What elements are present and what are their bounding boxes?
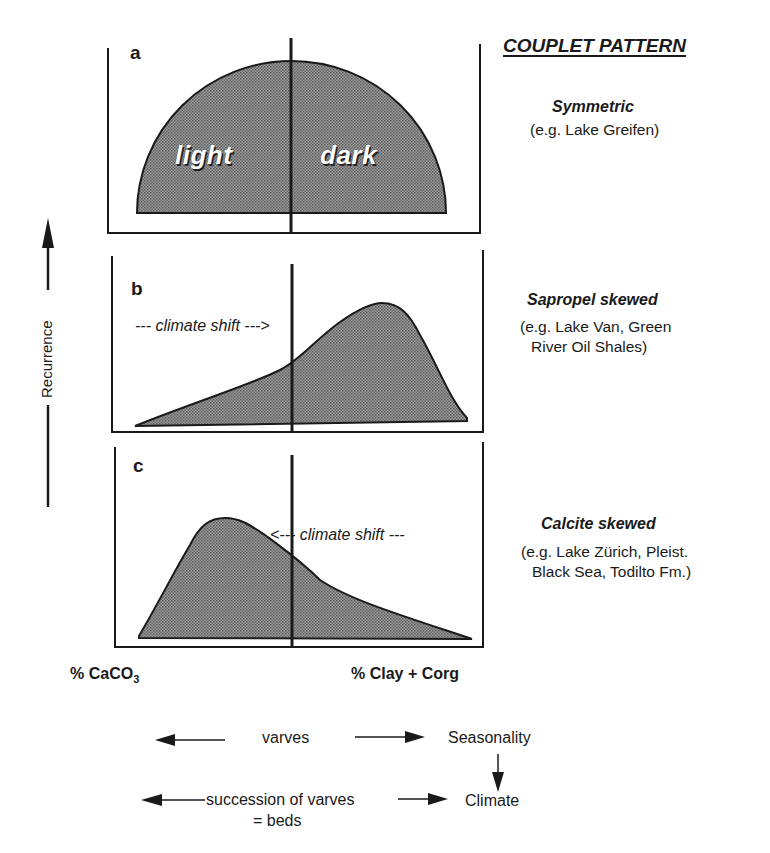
panel-b-climate-shift-label: --- climate shift --->	[135, 317, 270, 335]
dark-label: dark	[320, 140, 377, 171]
panel-a-example-line-1: (e.g. Lake Greifen)	[530, 120, 659, 139]
light-label: light	[175, 140, 232, 171]
panel-a-letter: a	[130, 42, 141, 64]
panel-c-climate-shift-label: <--- climate shift ---	[270, 526, 405, 544]
panel-a-frame	[108, 38, 480, 233]
varves-left-arrow	[155, 734, 225, 746]
beds-label: = beds	[253, 812, 301, 830]
varves-right-arrow	[355, 731, 425, 743]
panel-b-example-line-2: River Oil Shales)	[531, 337, 647, 356]
succession-label: succession of varves	[206, 791, 355, 809]
panel-b-example-line-1: (e.g. Lake Van, Green	[520, 317, 671, 336]
panel-c-pattern-name: Calcite skewed	[541, 515, 656, 533]
succession-left-arrow	[141, 794, 205, 806]
x-axis-left-label: % CaCO3	[70, 665, 139, 685]
y-axis-label: Recurrence	[38, 320, 55, 398]
diagram-title: COUPLET PATTERN	[503, 35, 686, 57]
panel-a-pattern-name: Symmetric	[552, 98, 634, 116]
succession-right-arrow	[398, 793, 448, 805]
seasonality-label: Seasonality	[448, 729, 531, 747]
panel-c-example-line-1: (e.g. Lake Zürich, Pleist.	[521, 542, 688, 561]
panel-c-frame	[115, 442, 483, 647]
climate-label: Climate	[465, 792, 519, 810]
x-axis-right-label: % Clay + Corg	[351, 665, 459, 683]
varves-label: varves	[262, 729, 309, 747]
panel-c-example-line-2: Black Sea, Todilto Fm.)	[532, 562, 691, 581]
panel-b-frame	[112, 250, 483, 432]
panel-c-letter: c	[133, 455, 144, 477]
panel-b-pattern-name: Sapropel skewed	[527, 291, 658, 309]
panel-b-letter: b	[131, 278, 143, 300]
seasonality-to-climate-arrow	[492, 754, 504, 792]
